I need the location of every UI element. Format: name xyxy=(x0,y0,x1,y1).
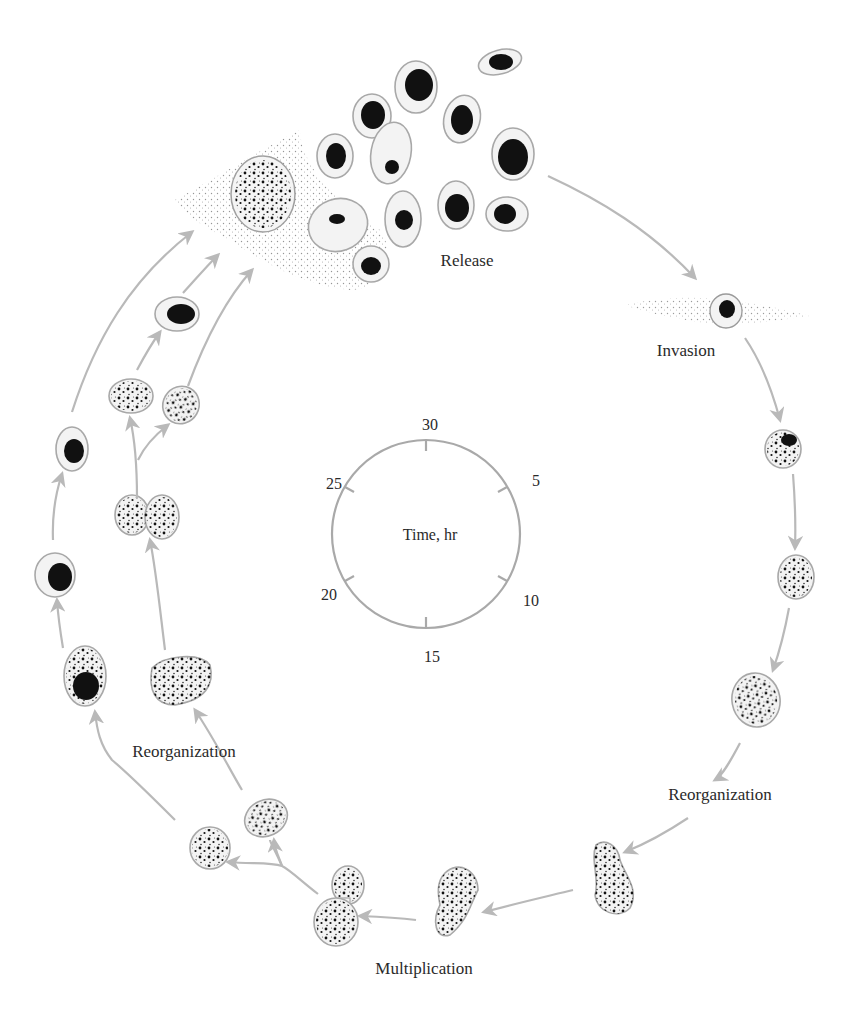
stage-label-multiplication: Multiplication xyxy=(375,959,473,978)
daughter-cell-2 xyxy=(238,792,293,843)
schizont-left-dividing xyxy=(115,495,179,539)
merozoite xyxy=(317,134,353,178)
trophozoite-left-2 xyxy=(151,657,211,705)
merozoite-left-1 xyxy=(35,553,75,597)
merozoite xyxy=(476,45,525,80)
daughter-cell-1 xyxy=(190,827,230,869)
tick-label-25: 25 xyxy=(326,475,342,492)
schizont-dividing-2 xyxy=(314,866,364,946)
daughter-left-b xyxy=(156,380,206,431)
clock-center-label: Time, hr xyxy=(403,526,458,543)
released-merozoites xyxy=(301,45,534,282)
merozoite xyxy=(486,197,528,231)
daughter-left-a xyxy=(109,379,153,413)
tick-label-5: 5 xyxy=(532,472,540,489)
time-clock: 30 5 10 15 20 25 Time, hr xyxy=(321,416,540,665)
tick-label-15: 15 xyxy=(424,648,440,665)
life-cycle-diagram: 30 5 10 15 20 25 Time, hr Release Invasi… xyxy=(0,0,845,1009)
stage-label-reorganization-right: Reorganization xyxy=(668,785,772,804)
trophozoite-right-2 xyxy=(778,555,814,599)
merozoite-left-3 xyxy=(155,297,199,331)
cycle-arrows xyxy=(53,176,796,920)
tick-label-20: 20 xyxy=(321,586,337,603)
merozoite xyxy=(492,128,534,180)
stage-label-release: Release xyxy=(441,251,494,270)
schizont-dividing-1 xyxy=(436,867,478,936)
merozoite xyxy=(438,181,474,229)
merozoite xyxy=(385,191,421,247)
trophozoite-right-3 xyxy=(728,669,785,731)
schizont-right xyxy=(594,842,633,913)
tick-label-10: 10 xyxy=(523,592,539,609)
merozoite-left-2 xyxy=(56,427,88,471)
stage-label-reorganization-left: Reorganization xyxy=(132,742,236,761)
tick-label-30: 30 xyxy=(422,416,438,433)
merozoite xyxy=(438,91,485,147)
trophozoite-right-1 xyxy=(765,430,801,468)
invasion-cell xyxy=(625,294,810,328)
merozoite xyxy=(395,61,437,113)
merozoite xyxy=(353,246,389,282)
stage-label-invasion: Invasion xyxy=(657,341,716,360)
trophozoite-left-1 xyxy=(64,646,106,706)
